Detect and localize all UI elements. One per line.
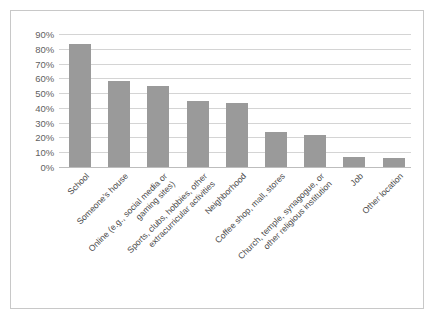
plot-area: 90%80%70%60%50%40%30%20%10%0%	[59, 34, 411, 167]
y-axis-tick-label: 70%	[35, 58, 54, 69]
bar	[304, 135, 326, 168]
x-axis-category-label: Other location	[360, 171, 405, 216]
bar-series	[59, 34, 411, 167]
y-axis-tick-label: 80%	[35, 43, 54, 54]
x-axis-category-label: School	[65, 171, 91, 197]
bar	[187, 101, 209, 168]
bar	[147, 86, 169, 167]
bar	[226, 103, 248, 167]
axis-baseline	[59, 167, 411, 168]
y-axis-tick-label: 40%	[35, 102, 54, 113]
y-axis-tick-label: 10%	[35, 147, 54, 158]
x-axis-category-labels: SchoolSomeone's houseOnline (e.g., socia…	[59, 171, 411, 301]
bar	[343, 157, 365, 167]
y-axis-tick-label: 90%	[35, 29, 54, 40]
chart-container: 90%80%70%60%50%40%30%20%10%0% SchoolSome…	[10, 10, 424, 309]
y-axis-tick-label: 20%	[35, 132, 54, 143]
y-axis-tick-label: 30%	[35, 117, 54, 128]
x-axis-category-label: Job	[349, 171, 366, 188]
bar	[108, 81, 130, 167]
y-axis-tick-label: 50%	[35, 88, 54, 99]
bar	[265, 132, 287, 167]
y-axis-tick-label: 60%	[35, 73, 54, 84]
y-axis-tick-label: 0%	[40, 162, 54, 173]
bar	[383, 158, 405, 167]
x-axis-category-label: Church, temple, synagogue, orother relig…	[236, 171, 334, 269]
bar	[69, 44, 91, 167]
